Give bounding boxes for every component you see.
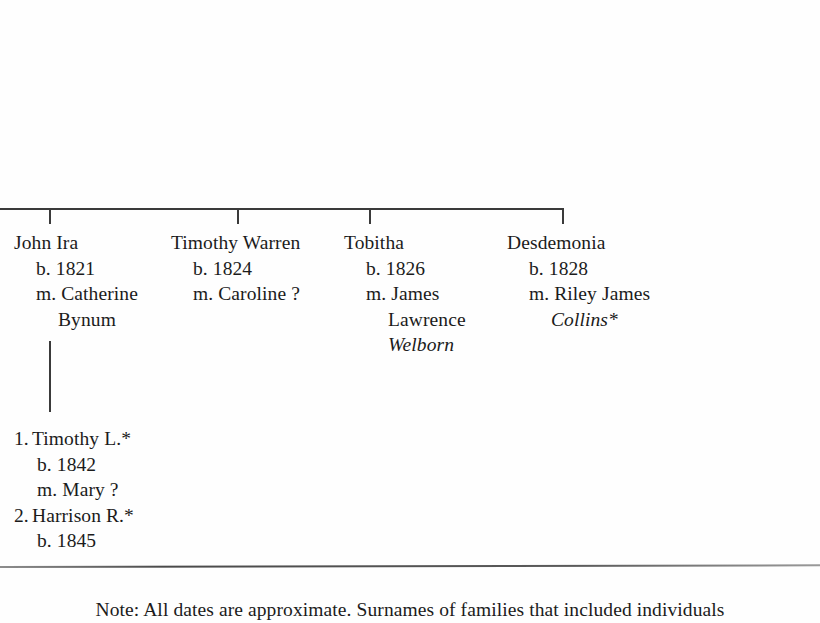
- chart-page: John Ira b. 1821 m. Catherine Bynum Timo…: [0, 0, 820, 623]
- connector-drop-desdemonia: [562, 209, 564, 224]
- child-birth: b. 1842: [14, 452, 134, 478]
- person-block-tobitha: Tobitha b. 1826 m. James Lawrence Welbor…: [344, 230, 466, 358]
- child-number: 2.: [14, 503, 32, 529]
- child-name: Timothy L.*: [32, 428, 131, 449]
- person-birth: b. 1824: [171, 256, 300, 282]
- person-marriage: m. Catherine: [14, 281, 138, 307]
- connector-drop-tobitha: [369, 209, 371, 224]
- person-birth: b. 1821: [14, 256, 138, 282]
- person-marriage: m. Caroline ?: [171, 281, 300, 307]
- child-name: Harrison R.*: [32, 505, 134, 526]
- person-spouse-middle-name: Lawrence: [344, 307, 466, 333]
- person-birth: b. 1828: [507, 256, 650, 282]
- child-birth: b. 1845: [14, 528, 134, 554]
- footnote-line-1: Note: All dates are approximate. Surname…: [0, 596, 820, 623]
- person-spouse-surname: Collins*: [507, 307, 650, 333]
- footnote: Note: All dates are approximate. Surname…: [0, 596, 820, 623]
- children-list: 1.Timothy L.* b. 1842 m. Mary ? 2.Harris…: [14, 426, 134, 554]
- person-name: Tobitha: [344, 230, 466, 256]
- child-marriage: m. Mary ?: [14, 477, 134, 503]
- person-name: Desdemonia: [507, 230, 650, 256]
- list-item: 2.Harrison R.*: [14, 503, 134, 529]
- person-marriage: m. James: [344, 281, 466, 307]
- person-name: Timothy Warren: [171, 230, 300, 256]
- list-item: 1.Timothy L.*: [14, 426, 134, 452]
- descent-line-john-ira: [49, 341, 51, 412]
- child-number: 1.: [14, 426, 32, 452]
- person-block-john-ira: John Ira b. 1821 m. Catherine Bynum: [14, 230, 138, 332]
- person-block-timothy-warren: Timothy Warren b. 1824 m. Caroline ?: [171, 230, 300, 307]
- connector-drop-timothy-warren: [237, 209, 239, 224]
- person-name: John Ira: [14, 230, 138, 256]
- connector-drop-john-ira: [49, 209, 51, 224]
- person-spouse-surname: Welborn: [344, 332, 466, 358]
- footer-divider: [0, 564, 820, 568]
- person-birth: b. 1826: [344, 256, 466, 282]
- person-marriage: m. Riley James: [507, 281, 650, 307]
- sibling-connector-rail: [0, 208, 564, 210]
- person-spouse-surname: Bynum: [14, 307, 138, 333]
- person-block-desdemonia: Desdemonia b. 1828 m. Riley James Collin…: [507, 230, 650, 332]
